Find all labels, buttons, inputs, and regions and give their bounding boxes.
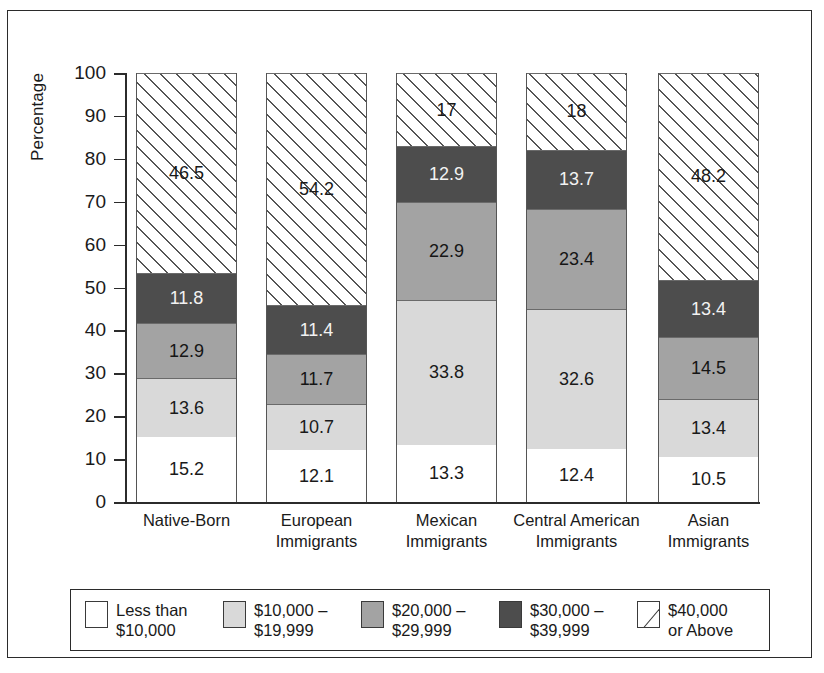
bar-segment-value: 48.2 — [691, 166, 726, 187]
legend-label-line: $10,000 — [116, 620, 188, 640]
bar-segment-value: 10.5 — [691, 469, 726, 490]
bar-segment: 10.5 — [659, 457, 758, 502]
y-axis-tick-label: 100 — [60, 61, 106, 85]
bar-segment: 32.6 — [527, 309, 626, 449]
bar-segment: 14.5 — [659, 337, 758, 399]
legend-item[interactable]: $40,000or Above — [637, 600, 733, 644]
legend-label-line: $40,000 — [668, 600, 733, 620]
y-axis-tick-label: 30 — [60, 361, 106, 385]
bar-segment-value: 13.3 — [429, 463, 464, 484]
bar-segment-value: 12.9 — [429, 164, 464, 185]
bar-segment: 11.4 — [267, 305, 366, 354]
y-axis-tick-label: 10 — [60, 447, 106, 471]
category-label: EuropeanImmigrants — [242, 510, 392, 552]
category-label: MexicanImmigrants — [372, 510, 522, 552]
legend-swatch — [637, 601, 660, 628]
legend-label: $10,000 –$19,999 — [254, 600, 327, 640]
bar-segment-value: 46.5 — [169, 163, 204, 184]
legend-swatch — [223, 601, 246, 628]
legend-label-line: $30,000 – — [530, 600, 603, 620]
y-axis-tick-label: 50 — [60, 276, 106, 300]
bar-segment-value: 12.9 — [169, 341, 204, 362]
legend-swatch — [499, 601, 522, 628]
bar-segment-value: 10.7 — [299, 417, 334, 438]
bar-segment-value: 33.8 — [429, 362, 464, 383]
bar: 12.110.711.711.454.2 — [266, 73, 367, 502]
bar-segment: 12.9 — [397, 146, 496, 201]
y-axis-tick-label: 60 — [60, 233, 106, 257]
y-axis-tick: 90 — [114, 116, 125, 118]
bar-segment: 12.4 — [527, 449, 626, 502]
legend-item[interactable]: $10,000 –$19,999 — [223, 600, 327, 644]
y-axis-tick: 20 — [114, 416, 125, 418]
bar: 15.213.612.911.846.5 — [136, 73, 237, 502]
legend-item[interactable]: $20,000 –$29,999 — [361, 600, 465, 644]
legend-item[interactable]: $30,000 –$39,999 — [499, 600, 603, 644]
bar-segment-value: 14.5 — [691, 358, 726, 379]
bar-segment-value: 12.1 — [299, 466, 334, 487]
category-label-line: European — [242, 510, 392, 531]
bar-segment: 13.6 — [137, 378, 236, 436]
bar: 12.432.623.413.718 — [526, 73, 627, 502]
bar-segment: 17 — [397, 73, 496, 146]
y-axis-tick: 80 — [114, 159, 125, 161]
legend-label-line: $29,999 — [392, 620, 465, 640]
y-axis-tick-label: 80 — [60, 147, 106, 171]
category-label: AsianImmigrants — [634, 510, 784, 552]
legend-label-line: $20,000 – — [392, 600, 465, 620]
bar-segment-value: 13.7 — [559, 169, 594, 190]
y-axis-tick: 70 — [114, 202, 125, 204]
y-axis-tick: 100 — [114, 73, 125, 75]
figure-frame: Percentage 0102030405060708090100 15.213… — [7, 10, 812, 658]
category-label-line: Asian — [634, 510, 784, 531]
legend-label: $20,000 –$29,999 — [392, 600, 465, 640]
category-label-line: Central American — [502, 510, 652, 531]
bar-segment-value: 13.4 — [691, 299, 726, 320]
legend-label-line: $39,999 — [530, 620, 603, 640]
bar: 10.513.414.513.448.2 — [658, 73, 759, 502]
category-label-line: Immigrants — [634, 531, 784, 552]
category-label: Native-Born — [112, 510, 262, 531]
y-axis-tick: 40 — [114, 330, 125, 332]
bar-segment-value: 13.6 — [169, 398, 204, 419]
y-axis-tick-label: 20 — [60, 404, 106, 428]
bar-segment: 11.7 — [267, 354, 366, 404]
bar-segment: 13.3 — [397, 445, 496, 502]
bar-segment-value: 11.7 — [300, 369, 334, 390]
y-axis-tick: 30 — [114, 373, 125, 375]
bar-segment-value: 54.2 — [299, 179, 334, 200]
legend-label: $30,000 –$39,999 — [530, 600, 603, 640]
bar-segment-value: 12.4 — [559, 465, 594, 486]
bar-segment-value: 11.8 — [170, 288, 204, 309]
legend-item[interactable]: Less than$10,000 — [85, 600, 188, 644]
bar-segment: 12.9 — [137, 323, 236, 378]
bar-segment-value: 13.4 — [691, 418, 726, 439]
x-axis-line — [125, 502, 760, 504]
bar-segment: 13.4 — [659, 280, 758, 337]
plot-area: 0102030405060708090100 15.213.612.911.84… — [125, 73, 760, 502]
legend-swatch — [361, 601, 384, 628]
bar-segment: 15.2 — [137, 437, 236, 502]
bar-segment: 46.5 — [137, 73, 236, 272]
bar-segment: 12.1 — [267, 450, 366, 502]
legend-swatch — [85, 601, 108, 628]
bar-segment-value: 23.4 — [559, 249, 594, 270]
category-label-line: Immigrants — [242, 531, 392, 552]
bar-segment: 22.9 — [397, 202, 496, 300]
bar: 13.333.822.912.917 — [396, 73, 497, 502]
legend-label-line: $10,000 – — [254, 600, 327, 620]
bar-segment-value: 22.9 — [429, 241, 464, 262]
bar-segment: 33.8 — [397, 300, 496, 445]
legend-label-line: or Above — [668, 620, 733, 640]
bar-segment: 10.7 — [267, 404, 366, 450]
y-axis-tick-label: 90 — [60, 104, 106, 128]
bar-segment-value: 32.6 — [559, 369, 594, 390]
bar-segment: 11.8 — [137, 273, 236, 324]
category-label-line: Mexican — [372, 510, 522, 531]
y-axis-tick: 10 — [114, 459, 125, 461]
category-label-line: Immigrants — [372, 531, 522, 552]
y-axis-tick-label: 40 — [60, 318, 106, 342]
y-axis-tick: 50 — [114, 288, 125, 290]
y-axis-tick-label: 0 — [60, 490, 106, 514]
legend-label: $40,000or Above — [668, 600, 733, 640]
